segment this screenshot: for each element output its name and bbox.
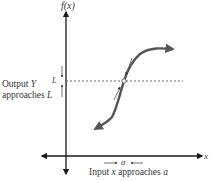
a-label: a <box>121 158 126 167</box>
input-label: Input x approaches a <box>89 168 168 178</box>
y-axis-label: f(x) <box>61 1 75 11</box>
output-label-line1: Output Y <box>2 80 36 90</box>
limit-diagram: f(x) x L Output Y approaches L a Input x… <box>0 0 212 181</box>
x-axis-label: x <box>204 152 208 161</box>
function-curve <box>95 48 173 129</box>
output-label-line2: approaches L <box>2 91 52 101</box>
limit-label: L <box>52 77 56 85</box>
open-point <box>122 79 126 83</box>
